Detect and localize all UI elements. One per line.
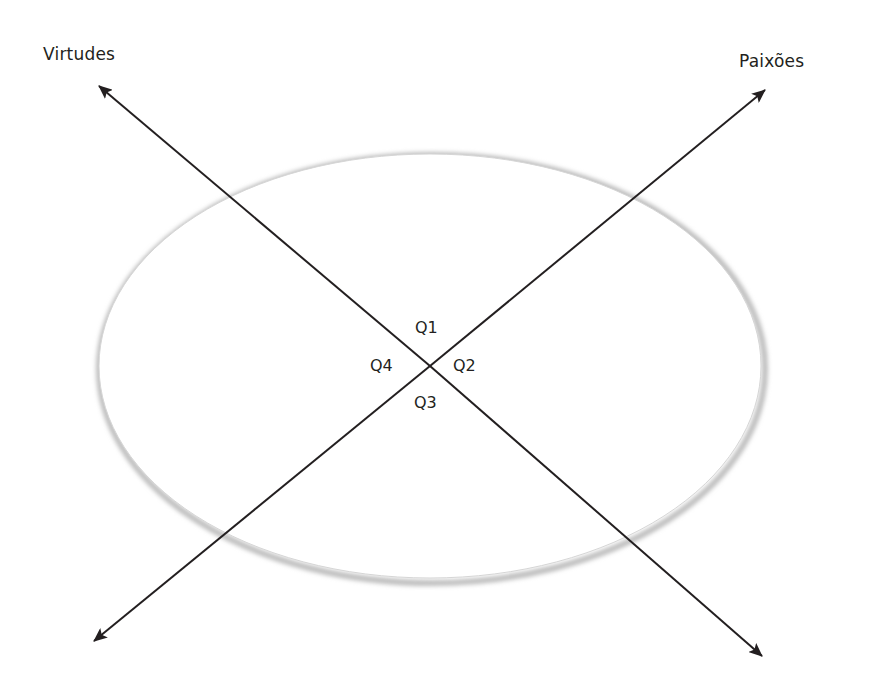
quadrant-q2-label: Q2 <box>453 358 476 374</box>
paixoes-label: Paixões <box>739 53 804 70</box>
virtudes-label: Virtudes <box>43 46 115 63</box>
quadrant-q3-label: Q3 <box>414 395 437 411</box>
quadrant-q1-label: Q1 <box>415 320 438 336</box>
quadrant-q4-label: Q4 <box>370 358 393 374</box>
diagram-canvas <box>0 0 873 690</box>
